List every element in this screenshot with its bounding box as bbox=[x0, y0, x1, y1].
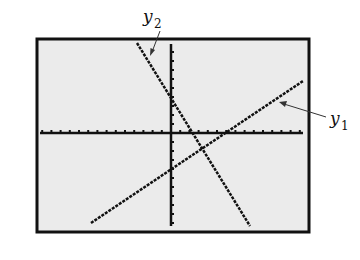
svg-text:2: 2 bbox=[154, 17, 162, 31]
svg-text:y: y bbox=[142, 6, 153, 26]
calculator-graph-figure: y 2 y 1 bbox=[0, 0, 360, 260]
svg-text:y: y bbox=[329, 108, 340, 128]
calculator-screen bbox=[37, 39, 309, 232]
svg-text:1: 1 bbox=[341, 119, 349, 133]
label-y2: y 2 bbox=[142, 6, 162, 31]
label-y1: y 1 bbox=[329, 108, 349, 133]
